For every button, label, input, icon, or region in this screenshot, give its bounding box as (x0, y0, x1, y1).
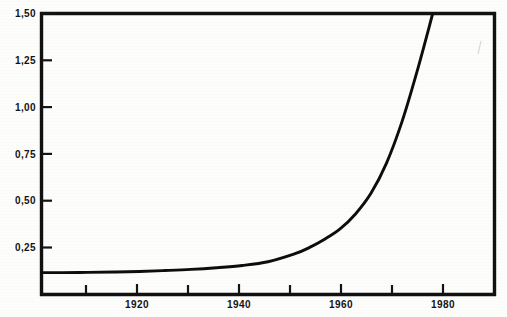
y-axis-labels: 1,50 1,25 1,00 0,75 0,50 0,25 (15, 8, 36, 253)
y-axis-label-2: 0,75 (15, 149, 36, 160)
y-axis-label-3: 1,00 (15, 102, 36, 113)
x-axis-labels: 1920 1940 1960 1980 (125, 299, 455, 310)
data-curve-line (42, 14, 433, 273)
y-axis-label-0: 0,25 (15, 242, 36, 253)
x-axis-ticks (86, 284, 443, 293)
y-axis-label-1: 0,50 (15, 195, 36, 206)
x-axis-label-1960: 1960 (329, 299, 353, 310)
x-axis-label-1920: 1920 (125, 299, 149, 310)
line-chart: 1,50 1,25 1,00 0,75 0,50 0,25 1920 1940 … (0, 0, 507, 317)
y-axis-ticks (42, 14, 52, 248)
x-axis-label-1980: 1980 (431, 299, 455, 310)
x-axis-label-1940: 1940 (227, 299, 251, 310)
scan-artifact-mark (478, 41, 481, 54)
chart-figure: 1,50 1,25 1,00 0,75 0,50 0,25 1920 1940 … (0, 0, 507, 317)
y-axis-label-5: 1,50 (15, 8, 36, 19)
y-axis-label-4: 1,25 (15, 55, 36, 66)
plot-frame (42, 14, 495, 295)
